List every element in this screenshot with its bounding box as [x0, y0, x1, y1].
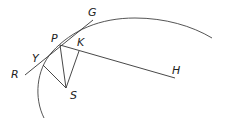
label-k: K [77, 36, 85, 49]
label-y: Y [32, 52, 40, 65]
label-r: R [11, 68, 19, 81]
label-p: P [51, 32, 58, 45]
label-g: G [88, 6, 97, 19]
line-ys [43, 65, 66, 88]
orbit-curve [38, 18, 212, 118]
line-ks [66, 51, 79, 88]
line-ph [60, 45, 175, 78]
label-s: S [70, 89, 77, 102]
diagram-canvas: G P K Y R S H [0, 0, 225, 121]
label-h: H [172, 64, 180, 77]
line-ps [60, 45, 66, 88]
